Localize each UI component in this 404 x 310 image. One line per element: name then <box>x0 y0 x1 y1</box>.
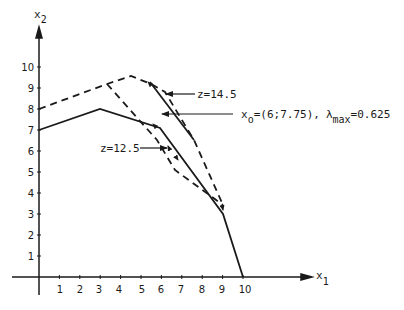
x-axis-arrow-icon <box>301 274 312 280</box>
y-tick-label: 10 <box>21 62 34 73</box>
z-low-label: z=12.5 <box>100 142 140 155</box>
y-axis-arrow-icon <box>36 27 42 38</box>
y-tick-label: 6 <box>28 146 34 157</box>
y-tick-label: 8 <box>28 104 34 115</box>
x-tick-label: 6 <box>158 284 164 295</box>
y-tick-label: 2 <box>28 230 34 241</box>
direction-arrow-icon <box>222 205 223 210</box>
x-tick-label: 9 <box>219 284 225 295</box>
y-tick-label: 7 <box>28 125 34 136</box>
z-contour-line <box>150 82 194 140</box>
y-tick-label: 5 <box>28 167 34 178</box>
x-axis-label: x1 <box>316 269 329 287</box>
x-tick-label: 5 <box>139 284 145 295</box>
direction-arrow-icon <box>176 157 178 160</box>
solid-boundary-line <box>39 109 243 277</box>
x-tick-label: 4 <box>116 284 122 295</box>
x0-label: xo=(6;7.75),λmax=0.625 <box>241 108 390 125</box>
x-tick-label: 3 <box>96 284 102 295</box>
y-axis-label: x2 <box>34 8 47 25</box>
x-tick-label: 10 <box>239 284 252 295</box>
y-tick-labels: 1 2 3 4 5 6 7 8 9 10 <box>21 62 34 262</box>
axes <box>12 27 312 295</box>
direction-arrow-icon <box>168 146 170 150</box>
y-tick-label: 4 <box>28 188 34 199</box>
diagram-canvas: 1 2 3 4 5 6 7 8 9 10 1 2 3 4 5 6 7 8 9 1… <box>0 0 404 310</box>
x-tick-label: 8 <box>199 284 205 295</box>
x-tick-label: 1 <box>57 284 63 295</box>
y-tick-label: 1 <box>28 251 34 262</box>
x-tick-label: 7 <box>178 284 184 295</box>
y-tick-label: 9 <box>28 83 34 94</box>
x-tick-label: 2 <box>77 284 83 295</box>
z-high-label: z=14.5 <box>197 88 237 101</box>
x-tick-labels: 1 2 3 4 5 6 7 8 9 10 <box>57 284 252 295</box>
y-tick-label: 3 <box>28 209 34 220</box>
